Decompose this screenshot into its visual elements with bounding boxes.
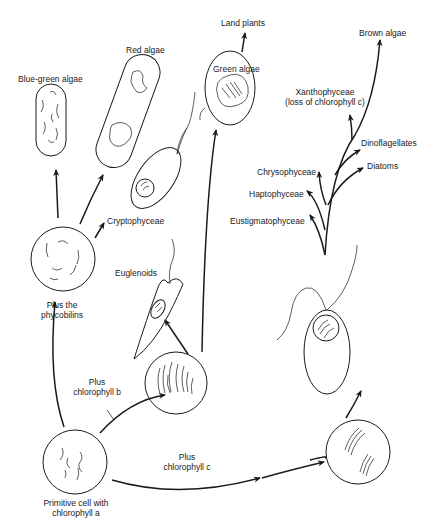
label-dinoflagellates: Dinoflagellates <box>361 138 417 148</box>
label-blue-green-algae: Blue-green algae <box>18 74 83 84</box>
cryptophyceae-cell <box>121 92 195 217</box>
label-plus-chlorophyll-b: Plus chlorophyll b <box>73 377 121 397</box>
label-diatoms: Diatoms <box>367 161 398 171</box>
label-green-algae: Green algae <box>213 64 260 74</box>
chlorophyll-c-cell <box>326 420 390 484</box>
label-brown-algae: Brown algae <box>359 28 406 38</box>
heterokont-cell <box>277 245 357 394</box>
label-red-algae: Red algae <box>126 45 165 55</box>
euglenoid-cell <box>134 239 183 359</box>
blue-green-algae-cell <box>36 84 66 156</box>
green-algae-cell <box>200 51 255 125</box>
phycobilin-cell <box>31 227 95 291</box>
label-euglenoids: Euglenoids <box>115 268 157 278</box>
label-eustigmatophyceae: Eustigmatophyceae <box>230 216 305 226</box>
algae-evolution-diagram: Blue-green algae Red algae Green algae L… <box>0 0 437 525</box>
label-xanthophyceae: Xanthophyceae (loss of chlorophyll c) <box>285 87 365 107</box>
label-primitive-cell: Primitive cell with chlorophyll a <box>43 498 108 518</box>
label-haptophyceae: Haptophyceae <box>249 189 304 199</box>
label-cryptophyceae: Cryptophyceae <box>107 216 164 226</box>
chlorophyll-b-cell <box>145 352 207 414</box>
label-land-plants: Land plants <box>221 18 265 28</box>
label-plus-chlorophyll-c: Plus chlorophyll c <box>163 452 210 472</box>
label-plus-phycobilins: Plus the phycobilins <box>41 300 83 320</box>
primitive-cell <box>43 430 107 494</box>
label-chrysophyceae: Chrysophyceae <box>257 167 316 177</box>
